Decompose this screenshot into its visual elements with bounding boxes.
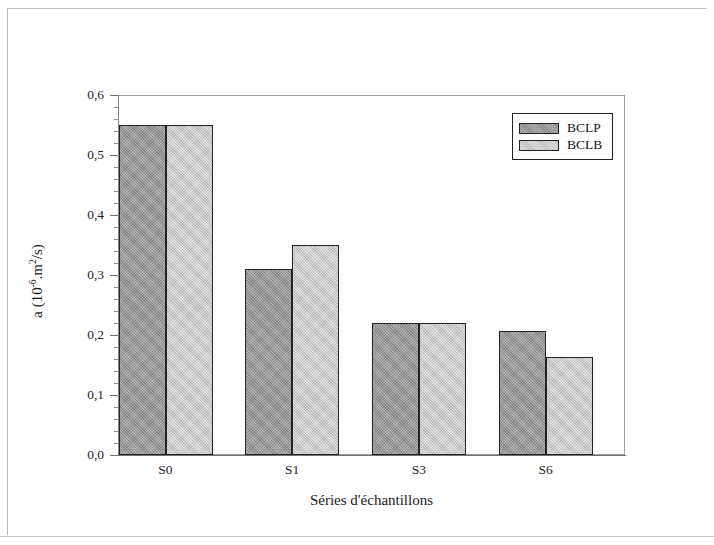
y-axis-tick: [110, 275, 118, 276]
y-axis-tick: [110, 95, 118, 96]
y-axis-minor-tick: [114, 143, 118, 144]
y-axis-minor-tick: [114, 299, 118, 300]
y-axis-minor-tick: [114, 203, 118, 204]
y-axis-tick: [110, 335, 118, 336]
y-axis-tick-label: 0,0: [64, 448, 104, 462]
y-axis-minor-tick: [114, 227, 118, 228]
y-axis-minor-tick: [114, 251, 118, 252]
y-axis-title-suffix: /s): [29, 244, 45, 259]
y-axis-minor-tick: [114, 239, 118, 240]
bar-bclp-s3: [372, 323, 419, 455]
y-axis-tick: [110, 455, 118, 456]
y-axis-minor-tick: [114, 359, 118, 360]
y-axis-minor-tick: [114, 347, 118, 348]
y-axis-minor-tick: [114, 167, 118, 168]
x-axis-title: Séries d'échantillons: [118, 492, 625, 509]
y-axis-tick-label-text: 0,4: [68, 208, 104, 222]
y-axis-tick-label: 0,2: [64, 328, 104, 342]
legend-item: BCLB: [519, 137, 606, 153]
y-axis-tick-label-text: 0,0: [68, 448, 104, 462]
y-axis-minor-tick: [114, 431, 118, 432]
y-axis-minor-tick: [114, 191, 118, 192]
y-axis-minor-tick: [114, 419, 118, 420]
y-axis-minor-tick: [114, 119, 118, 120]
y-axis-minor-tick: [114, 407, 118, 408]
y-axis-minor-tick: [114, 323, 118, 324]
y-axis-title-exponent-1: -6: [28, 279, 38, 287]
bar-chart-figure: 0,00,10,20,30,40,50,6 a (10-6.m2/s) S0S1…: [0, 0, 714, 545]
y-axis-title-prefix: a (10: [29, 287, 45, 317]
y-axis-tick: [110, 155, 118, 156]
y-axis-minor-tick: [114, 287, 118, 288]
y-axis-tick: [110, 395, 118, 396]
y-axis-tick: [110, 215, 118, 216]
bar-bclb-s6: [546, 357, 593, 455]
x-axis-tick-label: S6: [496, 462, 596, 478]
y-axis-title-mid: .m: [29, 264, 45, 279]
y-axis-tick-label: 0,1: [64, 388, 104, 402]
bar-bclb-s0: [166, 125, 213, 455]
bar-bclb-s3: [419, 323, 466, 455]
x-axis-tick-label: S0: [116, 462, 216, 478]
y-axis-tick-label-text: 0,2: [68, 328, 104, 342]
x-axis-tick-label: S3: [369, 462, 469, 478]
bar-bclb-s1: [292, 245, 339, 455]
y-axis-title: a (10-6.m2/s): [28, 211, 46, 351]
y-axis-title-exponent-2: 2: [28, 259, 38, 264]
x-axis-tick-label: S1: [242, 462, 342, 478]
y-axis-minor-tick: [114, 311, 118, 312]
y-axis-minor-tick: [114, 371, 118, 372]
bar-bclp-s6: [499, 331, 546, 455]
x-axis: [118, 455, 626, 456]
y-axis-tick-label: 0,3: [64, 268, 104, 282]
y-axis-minor-tick: [114, 383, 118, 384]
legend-label-bclp: BCLP: [567, 121, 601, 135]
y-axis-minor-tick: [114, 443, 118, 444]
y-axis-tick-label: 0,6: [64, 88, 104, 102]
y-axis-tick-label-text: 0,1: [68, 388, 104, 402]
bar-bclp-s0: [119, 125, 166, 455]
y-axis-minor-tick: [114, 131, 118, 132]
legend-swatch-bclb: [519, 140, 559, 151]
y-axis-minor-tick: [114, 263, 118, 264]
y-axis-tick-label-text: 0,6: [68, 88, 104, 102]
y-axis-tick-label: 0,5: [64, 148, 104, 162]
legend: BCLP BCLB: [512, 113, 613, 160]
y-axis-tick-label-text: 0,5: [68, 148, 104, 162]
y-axis-tick-label-text: 0,3: [68, 268, 104, 282]
bar-bclp-s1: [245, 269, 292, 455]
y-axis-tick-label: 0,4: [64, 208, 104, 222]
legend-label-bclb: BCLB: [567, 138, 602, 152]
legend-swatch-bclp: [519, 123, 559, 134]
y-axis-minor-tick: [114, 179, 118, 180]
y-axis-minor-tick: [114, 107, 118, 108]
legend-item: BCLP: [519, 120, 606, 136]
